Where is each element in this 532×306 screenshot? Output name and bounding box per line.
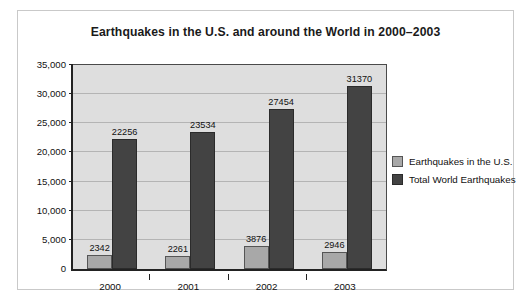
x-tick-label: 2003 [334, 281, 356, 292]
x-tick-label: 2002 [256, 281, 278, 292]
bar-value-label: 22256 [112, 127, 138, 137]
bar-2002-series1 [244, 246, 269, 269]
plot-area: 234222256226123534387627454294631370 [71, 64, 387, 271]
x-axis: 2000200120022003 [71, 274, 387, 296]
legend-item: Earthquakes in the U.S. [392, 153, 527, 170]
bar-2002-series2 [269, 109, 294, 269]
bar-2001-series1 [165, 256, 190, 269]
bar-value-label: 27454 [268, 97, 294, 107]
x-tick-mark [228, 274, 229, 280]
x-tick-mark [149, 274, 150, 280]
x-tick-label: 2001 [177, 281, 199, 292]
y-tick-label: 5,000 [42, 233, 66, 244]
legend-label: Total World Earthquakes [409, 174, 516, 185]
x-tick-label: 2000 [99, 281, 121, 292]
y-tick-mark [69, 122, 73, 123]
bar-value-label: 2946 [324, 240, 344, 250]
bar-2000-series1 [87, 255, 112, 269]
y-tick-mark [69, 64, 73, 65]
legend-item: Total World Earthquakes [392, 171, 527, 188]
chart-frame: Earthquakes in the U.S. and around the W… [17, 10, 514, 290]
y-tick-label: 10,000 [37, 204, 66, 215]
bar-value-label: 2342 [89, 243, 109, 253]
y-tick-label: 0 [61, 263, 66, 274]
legend-label: Earthquakes in the U.S. [409, 156, 512, 167]
bar-2003-series2 [347, 86, 372, 269]
chart-legend: Earthquakes in the U.S.Total World Earth… [392, 153, 527, 189]
chart-title: Earthquakes in the U.S. and around the W… [18, 25, 513, 39]
bar-2000-series2 [112, 139, 137, 269]
bar-value-label: 31370 [347, 74, 373, 84]
y-tick-mark [69, 181, 73, 182]
gridline [73, 122, 386, 123]
y-tick-label: 20,000 [37, 146, 66, 157]
legend-swatch-icon [392, 156, 403, 167]
gridline [73, 93, 386, 94]
legend-swatch-icon [392, 174, 403, 185]
y-tick-mark [69, 93, 73, 94]
y-tick-label: 30,000 [37, 88, 66, 99]
bar-value-label: 23534 [190, 120, 216, 130]
bar-2001-series2 [190, 132, 215, 269]
bar-value-label: 2261 [168, 244, 188, 254]
y-tick-mark [69, 210, 73, 211]
y-tick-label: 35,000 [37, 59, 66, 70]
x-tick-mark [306, 274, 307, 280]
y-tick-mark [69, 151, 73, 152]
y-tick-mark [69, 239, 73, 240]
y-tick-label: 15,000 [37, 175, 66, 186]
bar-value-label: 3876 [246, 234, 266, 244]
bar-2003-series1 [322, 252, 347, 269]
y-tick-label: 25,000 [37, 117, 66, 128]
y-axis: 05,00010,00015,00020,00025,00030,00035,0… [18, 64, 66, 271]
